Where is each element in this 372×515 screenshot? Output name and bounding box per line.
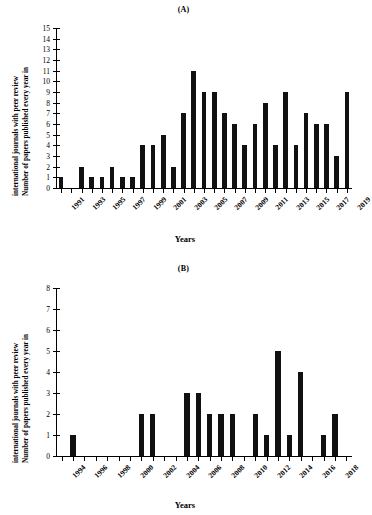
panel-b-x-tick xyxy=(244,456,245,461)
bar-2019 xyxy=(345,92,350,188)
bar-2007 xyxy=(207,414,212,456)
x-tick-label-2012: 2012 xyxy=(275,463,292,480)
bar-2006 xyxy=(196,393,201,456)
x-tick-label-1998: 1998 xyxy=(116,463,133,480)
panel-a-x-tick xyxy=(235,188,236,193)
bar-2003 xyxy=(181,113,186,188)
bar-1993 xyxy=(79,167,84,188)
bar-2011 xyxy=(253,414,258,456)
panel-b-y-tick-label: 6 xyxy=(32,326,50,335)
bar-2016 xyxy=(314,124,319,188)
bar-2004 xyxy=(191,71,196,188)
bar-2001 xyxy=(139,414,144,456)
bar-1999 xyxy=(140,145,145,188)
panel-a-y-tick-label: 10 xyxy=(32,77,50,86)
panel-a-y-tick-label: 11 xyxy=(32,66,50,75)
x-tick-label-1996: 1996 xyxy=(93,463,110,480)
panel-a-y-tick xyxy=(53,49,60,50)
panel-a-ylabel-line2: international journals with peer review xyxy=(12,67,22,196)
bar-2008 xyxy=(232,124,237,188)
panel-b-y-tick-label: 5 xyxy=(32,347,50,356)
panel-a-x-tick xyxy=(275,188,276,193)
panel-a-y-tick-label: 8 xyxy=(32,98,50,107)
panel-b-x-tick xyxy=(312,456,313,461)
panel-a-x-tick xyxy=(337,188,338,193)
panel-b-ylabel: international journals with peer review … xyxy=(12,334,31,463)
bar-2017 xyxy=(321,435,326,456)
panel-a-y-tick-label: 1 xyxy=(32,173,50,182)
panel-b-x-tick xyxy=(119,456,120,461)
panel-b-x-tick xyxy=(335,456,336,461)
panel-a-y-tick-label: 12 xyxy=(32,56,50,65)
panel-b-y-tick xyxy=(53,393,60,394)
chart-panel-a: (A) international journals with peer rev… xyxy=(0,0,367,258)
panel-b-x-tick xyxy=(210,456,211,461)
bar-2005 xyxy=(202,92,207,188)
panel-a-title: (A) xyxy=(0,5,367,14)
panel-a-ylabel: international journals with peer review … xyxy=(12,67,31,196)
panel-a-y-tick-label: 9 xyxy=(32,88,50,97)
x-tick-label-2002: 2002 xyxy=(161,463,178,480)
panel-b-y-tick-label: 8 xyxy=(32,284,50,293)
bar-1996 xyxy=(110,167,115,188)
panel-b-x-tick xyxy=(153,456,154,461)
bar-2002 xyxy=(150,414,155,456)
panel-b-y-tick xyxy=(53,330,60,331)
bar-2005 xyxy=(184,393,189,456)
panel-a-x-tick xyxy=(133,188,134,193)
panel-a-ylabel-line1: Number of papers published every year in xyxy=(22,67,32,196)
x-tick-label-2007: 2007 xyxy=(233,195,250,212)
panel-b-x-tick xyxy=(301,456,302,461)
bar-2002 xyxy=(171,167,176,188)
panel-a-y-tick xyxy=(53,167,60,168)
panel-a-y-tick-label: 0 xyxy=(32,184,50,193)
panel-a-x-tick xyxy=(92,188,93,193)
bar-2001 xyxy=(161,135,166,188)
panel-b-x-tick xyxy=(232,456,233,461)
bar-1994 xyxy=(89,177,94,188)
bar-2007 xyxy=(222,113,227,188)
bar-2017 xyxy=(324,124,329,188)
panel-a-x-tick xyxy=(143,188,144,193)
panel-b-x-tick xyxy=(346,456,347,461)
bar-2015 xyxy=(298,372,303,456)
panel-a-x-tick xyxy=(245,188,246,193)
panel-b-x-tick xyxy=(73,456,74,461)
panel-b-x-tick xyxy=(221,456,222,461)
x-tick-label-2006: 2006 xyxy=(207,463,224,480)
panel-a-plot-area: 0123456789101112131415199119931995199719… xyxy=(56,28,352,188)
panel-a-x-tick xyxy=(347,188,348,193)
panel-b-x-axis-line xyxy=(56,456,352,457)
chart-panel-b: (B) international journals with peer rev… xyxy=(0,258,367,515)
bar-2010 xyxy=(253,124,258,188)
panel-a-x-tick xyxy=(173,188,174,193)
panel-b-x-tick xyxy=(176,456,177,461)
panel-b-title: (B) xyxy=(0,264,367,273)
panel-b-x-tick xyxy=(255,456,256,461)
panel-b-y-tick xyxy=(53,351,60,352)
x-tick-label-2019: 2019 xyxy=(355,195,372,212)
panel-a-x-tick xyxy=(204,188,205,193)
x-tick-label-2011: 2011 xyxy=(274,195,291,212)
panel-b-x-tick xyxy=(130,456,131,461)
bar-2014 xyxy=(287,435,292,456)
panel-b-y-tick xyxy=(53,414,60,415)
bar-2009 xyxy=(242,145,247,188)
x-tick-label-2010: 2010 xyxy=(252,463,269,480)
bar-2013 xyxy=(275,351,280,456)
x-tick-label-1993: 1993 xyxy=(90,195,107,212)
panel-a-x-tick xyxy=(306,188,307,193)
panel-a-y-tick xyxy=(53,124,60,125)
panel-b-x-tick xyxy=(84,456,85,461)
panel-a-y-tick-label: 6 xyxy=(32,120,50,129)
x-tick-label-1997: 1997 xyxy=(131,195,148,212)
panel-a-x-tick xyxy=(286,188,287,193)
panel-a-y-tick xyxy=(53,71,60,72)
bar-2012 xyxy=(264,435,269,456)
x-tick-label-2004: 2004 xyxy=(184,463,201,480)
bar-2000 xyxy=(151,145,156,188)
x-tick-label-2000: 2000 xyxy=(138,463,155,480)
panel-a-y-tick-label: 15 xyxy=(32,24,50,33)
panel-b-xaxis-caption: Years xyxy=(20,500,350,510)
x-tick-label-2016: 2016 xyxy=(321,463,338,480)
